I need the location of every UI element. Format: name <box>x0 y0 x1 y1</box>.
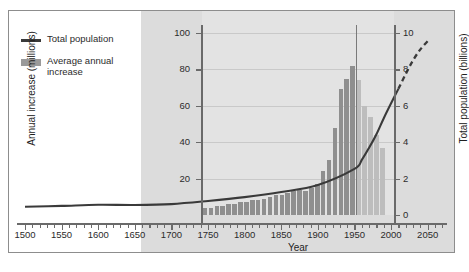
legend-label-annual-increase-line2: increase <box>47 66 141 77</box>
x-tick-1740 <box>201 224 202 228</box>
bar-1790 <box>226 204 231 215</box>
x-tick-1930 <box>340 224 341 228</box>
gridline-80 <box>202 69 394 70</box>
x-tick-1780 <box>230 224 231 228</box>
bar-1750 <box>203 208 208 215</box>
x-tick-2070 <box>442 224 443 228</box>
bar-1930 <box>309 188 314 215</box>
x-tick-label-1500: 1500 <box>5 229 45 240</box>
bar-2030 <box>368 117 373 215</box>
shaded-region-left <box>141 11 202 215</box>
bar-1760 <box>209 208 214 215</box>
legend-item-annual-increase: Average annual increase <box>21 55 141 77</box>
x-tick-1720 <box>186 224 187 228</box>
x-tick-1560 <box>69 224 70 228</box>
y-axis-right-line <box>394 25 396 224</box>
x-axis-line <box>17 223 447 225</box>
x-tick-1910 <box>325 224 326 228</box>
y-left-tick-label-80: 80 <box>164 63 190 74</box>
x-tick-1830 <box>267 224 268 228</box>
x-tick-1820 <box>259 224 260 228</box>
y-axis-left-title: Annual increase (millions) <box>26 19 37 159</box>
x-tick-1760 <box>215 224 216 228</box>
x-tick-1690 <box>164 224 165 228</box>
x-tick-1770 <box>223 224 224 228</box>
x-tick-label-2050: 2050 <box>408 229 448 240</box>
gridline-100 <box>202 33 394 34</box>
y-right-tick-label-4: 4 <box>403 136 429 147</box>
y-left-tick-mark-100 <box>196 33 201 34</box>
x-tick-2040 <box>420 224 421 228</box>
x-tick-label-1650: 1650 <box>115 229 155 240</box>
y-left-tick-mark-40 <box>196 142 201 143</box>
y-left-tick-label-40: 40 <box>164 136 190 147</box>
bar-1850 <box>262 199 267 215</box>
x-tick-1970 <box>369 224 370 228</box>
bar-2050 <box>380 148 385 215</box>
bar-1880 <box>280 195 285 215</box>
x-tick-1660 <box>142 224 143 228</box>
bar-1920 <box>303 191 308 215</box>
bar-2040 <box>374 135 379 215</box>
bar-1770 <box>215 206 220 215</box>
bar-1810 <box>238 202 243 215</box>
bar-1820 <box>244 202 249 215</box>
bar-1830 <box>250 200 255 215</box>
x-tick-1810 <box>252 224 253 228</box>
x-tick-1790 <box>237 224 238 228</box>
y-left-tick-mark-60 <box>196 106 201 107</box>
x-tick-label-2000: 2000 <box>371 229 411 240</box>
bar-1890 <box>285 193 290 215</box>
y-right-tick-mark-0 <box>395 215 400 216</box>
bar-1910 <box>297 190 302 215</box>
y-right-tick-label-10: 10 <box>403 27 429 38</box>
bar-1940 <box>315 184 320 215</box>
x-tick-1610 <box>106 224 107 228</box>
legend-label-annual-increase-line1: Average annual <box>47 55 141 66</box>
bar-1960 <box>327 160 332 215</box>
x-tick-label-1850: 1850 <box>261 229 301 240</box>
y-axis-right-title: Total population (billions) <box>458 14 469 164</box>
x-tick-1620 <box>113 224 114 228</box>
x-tick-1870 <box>296 224 297 228</box>
x-tick-1710 <box>179 224 180 228</box>
legend-label-annual-increase: Average annual increase <box>47 55 141 77</box>
x-tick-1570 <box>76 224 77 228</box>
bar-1950 <box>321 171 326 215</box>
y-right-tick-mark-2 <box>395 179 400 180</box>
x-tick-label-1900: 1900 <box>298 229 338 240</box>
bar-1840 <box>256 200 261 215</box>
y-left-tick-mark-20 <box>196 179 201 180</box>
x-tick-1520 <box>40 224 41 228</box>
y-right-tick-mark-10 <box>395 33 400 34</box>
x-tick-label-1600: 1600 <box>78 229 118 240</box>
bar-2020 <box>362 106 367 215</box>
y-left-tick-label-20: 20 <box>164 173 190 184</box>
x-tick-1530 <box>47 224 48 228</box>
bar-1800 <box>232 204 237 215</box>
y-right-tick-mark-8 <box>395 69 400 70</box>
bar-1970 <box>333 128 338 215</box>
x-tick-1640 <box>128 224 129 228</box>
x-tick-label-1550: 1550 <box>42 229 82 240</box>
x-tick-1880 <box>303 224 304 228</box>
x-tick-1890 <box>311 224 312 228</box>
x-tick-1730 <box>193 224 194 228</box>
y-left-tick-mark-80 <box>196 69 201 70</box>
x-tick-1860 <box>289 224 290 228</box>
y-right-tick-label-6: 6 <box>403 100 429 111</box>
y-right-tick-label-8: 8 <box>403 63 429 74</box>
x-tick-label-1750: 1750 <box>188 229 228 240</box>
x-tick-1670 <box>149 224 150 228</box>
bar-1980 <box>339 89 344 215</box>
x-tick-1980 <box>376 224 377 228</box>
x-tick-label-1800: 1800 <box>225 229 265 240</box>
legend-label-total-population: Total population <box>47 33 141 44</box>
legend-item-total-population: Total population <box>21 33 141 44</box>
bar-2000 <box>350 66 355 215</box>
x-tick-1630 <box>120 224 121 228</box>
y-left-tick-label-100: 100 <box>164 27 190 38</box>
x-tick-1680 <box>157 224 158 228</box>
y-right-tick-label-0: 0 <box>403 209 429 220</box>
bar-1860 <box>268 197 273 215</box>
